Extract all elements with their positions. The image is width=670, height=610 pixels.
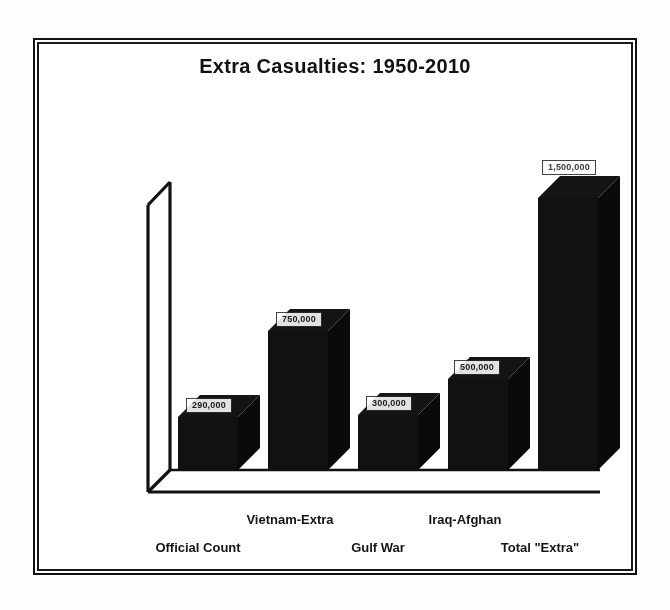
bar-total-extra <box>538 176 620 470</box>
bar-vietnam-extra <box>268 309 350 470</box>
x-tick-label: Gulf War <box>308 540 448 555</box>
bar-data-label: 1,500,000 <box>542 160 596 175</box>
bar-data-label: 300,000 <box>366 396 412 411</box>
bar-data-label: 500,000 <box>454 360 500 375</box>
chart-image: Extra Casualties: 1950-2010 1,600,000 1,… <box>0 0 670 610</box>
x-tick-label: Iraq-Afghan <box>390 512 540 527</box>
bar-data-label: 750,000 <box>276 312 322 327</box>
x-tick-label: Official Count <box>118 540 278 555</box>
bar-data-label: 290,000 <box>186 398 232 413</box>
x-tick-label: Total "Extra" <box>460 540 620 555</box>
x-tick-label: Vietnam-Extra <box>210 512 370 527</box>
